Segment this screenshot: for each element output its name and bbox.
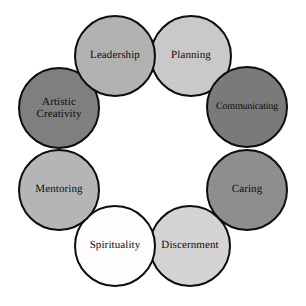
- node-mentoring[interactable]: Mentoring: [18, 149, 100, 231]
- node-label-artistic-creativity: Artistic Creativity: [36, 96, 83, 121]
- node-communicating[interactable]: Communicating: [206, 66, 288, 148]
- node-caring[interactable]: Caring: [206, 149, 288, 231]
- node-label-communicating: Communicating: [215, 101, 279, 113]
- node-label-discernment: Discernment: [160, 240, 219, 252]
- node-label-leadership: Leadership: [89, 50, 141, 62]
- node-leadership[interactable]: Leadership: [74, 15, 156, 97]
- node-label-spirituality: Spirituality: [89, 240, 142, 252]
- node-label-caring: Caring: [231, 184, 264, 196]
- node-label-mentoring: Mentoring: [34, 184, 83, 196]
- node-label-planning: Planning: [170, 50, 212, 62]
- circular-cluster-diagram: Artistic Creativity Discernment Planning…: [0, 0, 306, 306]
